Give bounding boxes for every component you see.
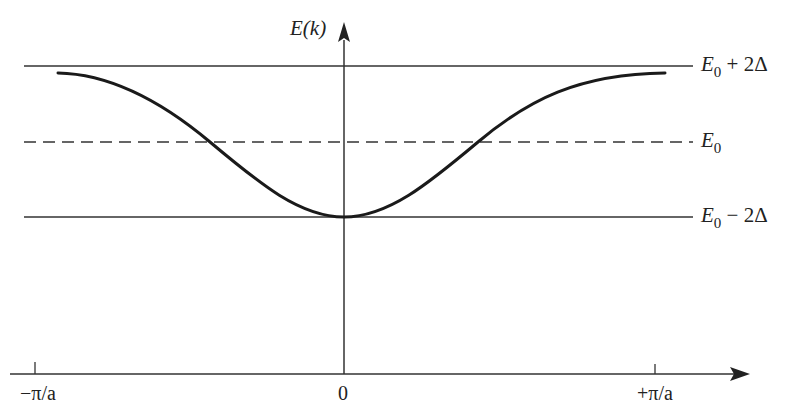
level-suffix: − 2Δ <box>721 203 767 227</box>
level-subscript: 0 <box>714 64 722 80</box>
dispersion-curve <box>58 73 665 217</box>
level-subscript: 0 <box>714 215 722 231</box>
level-label-top: E0 + 2Δ <box>701 52 768 77</box>
x-tick-label-zero: 0 <box>338 382 348 405</box>
level-suffix: + 2Δ <box>721 52 767 76</box>
band-diagram <box>0 0 798 420</box>
level-symbol: E <box>701 203 714 227</box>
level-subscript: 0 <box>714 140 722 156</box>
tick-label-text: −π/a <box>20 382 56 404</box>
y-axis-arrow-icon <box>338 22 350 42</box>
level-symbol: E <box>701 128 714 152</box>
level-label-middle: E0 <box>701 128 721 153</box>
x-tick-label-pos-pi-a: +π/a <box>637 382 673 405</box>
level-label-bottom: E0 − 2Δ <box>701 203 768 228</box>
tick-label-text: +π/a <box>637 382 673 404</box>
level-symbol: E <box>701 52 714 76</box>
y-axis-label: E(k) <box>290 16 326 41</box>
tick-label-text: 0 <box>338 382 348 404</box>
y-axis-label-text: E(k) <box>290 16 326 40</box>
x-tick-label-neg-pi-a: −π/a <box>20 382 56 405</box>
